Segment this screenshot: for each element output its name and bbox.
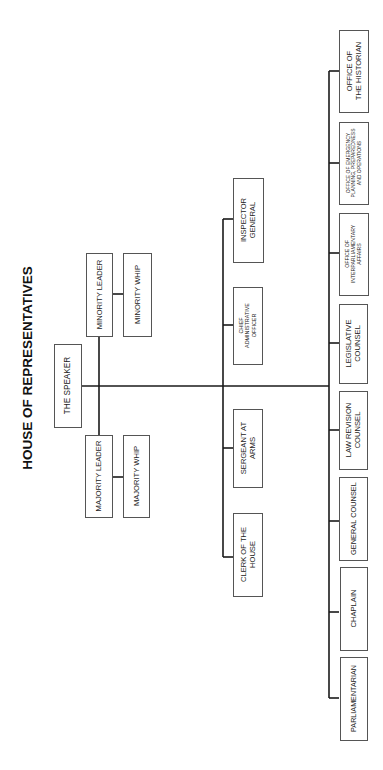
chart-title: HOUSE OF REPRESENTATIVES — [20, 266, 35, 470]
box-label-line: MINORITY LEADER — [95, 259, 104, 329]
box-label-line: GENERAL COUNSEL — [349, 482, 358, 555]
box-label-line: MAJORITY LEADER — [94, 440, 103, 511]
box-label: INSPECTORGENERAL — [239, 197, 257, 242]
box-label-line: THE SPEAKER — [63, 357, 72, 414]
chief-admin-officer-box: CHIEFADMINISTRATIVEOFFICER — [234, 288, 263, 365]
box-label-line: THE HISTORIAN — [354, 42, 363, 101]
box-label-line: COUNSEL — [353, 325, 362, 362]
box-label: CHAPLAIN — [349, 590, 358, 628]
box-label: GENERAL COUNSEL — [349, 482, 358, 555]
box-label-line: OFFICE OF — [345, 50, 354, 91]
minority-whip-box: MINORITY WHIP — [124, 254, 152, 337]
box-label-line: PARLIAMENTARIAN — [349, 665, 358, 732]
box-label: MINORITY WHIP — [133, 265, 142, 324]
law-revision-counsel-box: LAW REVISIONCOUNSEL — [340, 392, 368, 470]
majority-leader-box: MAJORITY LEADER — [86, 436, 113, 518]
majority-whip-box: MAJORITY WHIP — [124, 436, 150, 518]
sergeant-at-arms-box: SERGEANT ATARMS — [234, 410, 263, 488]
org-chart: HOUSE OF REPRESENTATIVES THE SPEAKERMINO… — [0, 0, 383, 770]
box-label-line: HOUSE — [248, 541, 257, 568]
chaplain-box: CHAPLAIN — [341, 568, 368, 651]
box-label-line: CHIEF — [238, 317, 244, 334]
parliamentarian-box: PARLIAMENTARIAN — [341, 658, 368, 741]
box-label-line: AND OPERATIONS — [356, 140, 362, 185]
box-label-line: COUNSEL — [353, 412, 362, 449]
clerk-box: CLERK OF THEHOUSE — [234, 514, 263, 597]
box-label: MAJORITY LEADER — [94, 440, 103, 511]
minority-leader-box: MINORITY LEADER — [87, 254, 113, 337]
box-label-line: SERGEANT AT — [239, 421, 248, 474]
box-label-line: MAJORITY WHIP — [132, 446, 141, 506]
box-label-line: CLERK OF THE — [239, 527, 248, 582]
box-label-line: ADMINISTRATIVE — [244, 303, 250, 348]
box-label: LEGISLATIVECOUNSEL — [344, 320, 362, 368]
legislative-counsel-box: LEGISLATIVECOUNSEL — [340, 305, 368, 384]
box-label-line: MINORITY WHIP — [133, 265, 142, 324]
box-label: THE SPEAKER — [63, 357, 72, 414]
box-label-line: GENERAL — [248, 202, 257, 238]
box-label-line: CHAPLAIN — [349, 590, 358, 628]
historian-box: OFFICE OFTHE HISTORIAN — [340, 31, 369, 113]
box-label-line: AFFAIRS — [356, 243, 362, 265]
speaker-box: THE SPEAKER — [55, 345, 82, 428]
interparliamentary-box: OFFICE OFINTERPARLIAMENTARYAFFAIRS — [340, 214, 369, 296]
box-label: PARLIAMENTARIAN — [349, 665, 358, 732]
box-label-line: LAW REVISION — [344, 403, 353, 458]
box-label-line: LEGISLATIVE — [344, 320, 353, 368]
connector-lines — [81, 71, 339, 698]
emergency-office-box: OFFICE OF EMERGENCYPLANNING, PREPAREDNES… — [340, 123, 369, 205]
general-counsel-box: GENERAL COUNSEL — [340, 478, 368, 561]
box-label-line: INSPECTOR — [239, 197, 248, 242]
box-label-line: ARMS — [248, 437, 257, 459]
box-label-line: OFFICER — [251, 314, 257, 338]
inspector-general-box: INSPECTORGENERAL — [234, 179, 264, 263]
box-label: MAJORITY WHIP — [132, 446, 141, 506]
box-label: MINORITY LEADER — [95, 259, 104, 329]
